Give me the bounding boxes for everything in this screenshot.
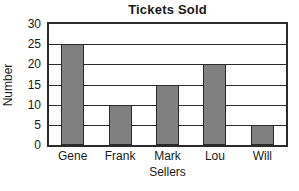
x-axis-tick-labels: GeneFrankMarkLouWill [47,149,288,165]
chart-title: Tickets Sold [47,2,288,18]
y-axis-title-container: Number [0,22,16,147]
y-axis-tick-label: 10 [28,99,41,111]
bar-chart: Tickets Sold Number 051015202530 GeneFra… [0,0,299,191]
bar-lou [203,64,226,145]
y-axis-tick-label: 20 [28,58,41,70]
bar-will [251,125,274,145]
y-axis-title: Number [1,63,15,106]
x-axis-title: Sellers [47,165,288,179]
y-axis-tick-label: 25 [28,38,41,50]
x-axis-tick-label: Lou [205,149,225,163]
x-axis-tick-label: Will [253,149,272,163]
y-axis-tick-label: 5 [34,119,41,131]
y-axis-tick-label: 15 [28,79,41,91]
y-axis-tick-labels: 051015202530 [16,22,45,147]
gridline [49,64,286,65]
bar-frank [109,105,132,145]
y-axis-tick-label: 30 [28,18,41,30]
bar-gene [61,44,84,145]
plot-inner [49,24,286,145]
gridline [49,44,286,45]
x-axis-tick-label: Gene [58,149,87,163]
x-axis-tick-label: Frank [105,149,136,163]
plot-area [47,22,288,147]
bar-mark [156,85,179,146]
x-axis-tick-label: Mark [154,149,181,163]
y-axis-tick-label: 0 [34,139,41,151]
